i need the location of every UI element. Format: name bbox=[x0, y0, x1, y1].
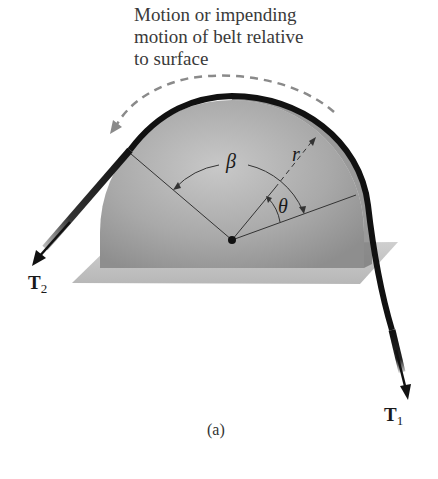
tension-2-label: T2 bbox=[28, 272, 47, 297]
tension-2-arrow bbox=[32, 222, 70, 266]
tension-1-subscript: 1 bbox=[397, 413, 404, 428]
tension-2-symbol: T bbox=[28, 272, 41, 293]
sub-caption: (a) bbox=[207, 421, 225, 439]
radius-label: r bbox=[292, 143, 300, 166]
tension-1-symbol: T bbox=[384, 404, 397, 425]
belt-friction-diagram bbox=[0, 0, 438, 479]
beta-label: β bbox=[226, 150, 236, 173]
theta-label: θ bbox=[278, 195, 288, 218]
tension-1-arrow bbox=[396, 350, 411, 400]
tension-2-subscript: 2 bbox=[41, 281, 48, 296]
tension-1-label: T1 bbox=[384, 404, 403, 429]
drum-center-point bbox=[228, 236, 236, 244]
